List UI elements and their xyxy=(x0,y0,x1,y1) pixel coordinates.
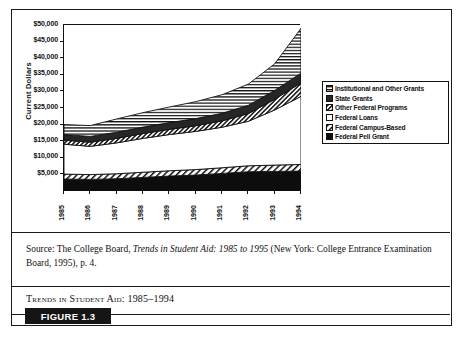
source-divider xyxy=(12,232,450,233)
legend-swatch-icon xyxy=(326,133,333,140)
legend-label: Institutional and Other Grants xyxy=(335,85,424,92)
figure-caption: Trends in Student Aid: 1985–1994 xyxy=(26,293,174,304)
legend-label: Federal Campus-Based xyxy=(335,124,405,131)
x-tick-label: 1993 xyxy=(269,196,279,230)
chart-region: Current Dollars $5,000$10,000$15,000$20,… xyxy=(12,10,450,232)
figure-number-badge: FIGURE 1.3 xyxy=(25,308,111,324)
y-tick-label: $15,000 xyxy=(12,136,58,143)
legend-label: Federal Loans xyxy=(335,114,378,121)
source-title: Trends in Student Aid: 1985 to 1995 xyxy=(133,244,268,254)
legend-item: Federal Loans xyxy=(326,113,446,123)
y-tick-label: $30,000 xyxy=(12,86,58,93)
x-tick-label: 1990 xyxy=(190,196,200,230)
legend-swatch-icon xyxy=(326,104,333,111)
x-tick-label: 1992 xyxy=(242,196,252,230)
legend-swatch-icon xyxy=(326,85,333,92)
legend-item: Federal Campus-Based xyxy=(326,122,446,132)
x-tick-label: 1985 xyxy=(58,196,68,230)
x-tick-label: 1987 xyxy=(111,196,121,230)
plot-area xyxy=(63,24,300,190)
y-tick-label: $40,000 xyxy=(12,53,58,60)
source-note: Source: The College Board, Trends in Stu… xyxy=(26,242,438,270)
legend-item: State Grants xyxy=(326,94,446,104)
legend-swatch-icon xyxy=(326,124,333,131)
y-tick-label: $50,000 xyxy=(12,20,58,27)
legend-label: Federal Pell Grant xyxy=(335,133,389,140)
legend-swatch-icon xyxy=(326,114,333,121)
x-tick-label: 1991 xyxy=(216,196,226,230)
figure-page: Current Dollars $5,000$10,000$15,000$20,… xyxy=(0,0,464,337)
legend-item: Institutional and Other Grants xyxy=(326,84,446,94)
y-tick-label: $5,000 xyxy=(12,169,58,176)
source-prefix: Source: The College Board, xyxy=(26,244,133,254)
y-tick-label: $10,000 xyxy=(12,152,58,159)
stacked-area-series xyxy=(64,25,301,191)
x-tick-label: 1989 xyxy=(163,196,173,230)
legend-item: Federal Pell Grant xyxy=(326,132,446,142)
x-tick-label: 1988 xyxy=(137,196,147,230)
chart-legend: Institutional and Other GrantsState Gran… xyxy=(322,81,449,144)
x-tick-label: 1986 xyxy=(84,196,94,230)
y-tick-label: $45,000 xyxy=(12,36,58,43)
y-tick-label: $25,000 xyxy=(12,103,58,110)
x-tick-label: 1994 xyxy=(295,196,305,230)
legend-swatch-icon xyxy=(326,95,333,102)
legend-label: Other Federal Programs xyxy=(335,104,407,111)
y-tick-label: $20,000 xyxy=(12,119,58,126)
caption-divider xyxy=(12,286,450,287)
legend-label: State Grants xyxy=(335,95,372,102)
y-tick-label: $35,000 xyxy=(12,69,58,76)
figure-frame: Current Dollars $5,000$10,000$15,000$20,… xyxy=(11,9,452,326)
legend-item: Other Federal Programs xyxy=(326,103,446,113)
